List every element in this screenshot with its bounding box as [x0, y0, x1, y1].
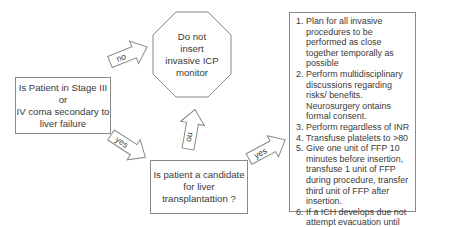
item-text: Plan for all invasive procedures to be p… — [306, 16, 412, 69]
no-outcome-text: Do not insert invasive ICP monitor — [152, 11, 232, 98]
item-number: 2. — [296, 69, 306, 122]
candidate-question-box: Is patient a candidate for liver transpl… — [150, 160, 248, 214]
start-question-box: Is Patient in Stage III or IV coma secon… — [15, 77, 111, 134]
item-text: Give one unit of FFP 10 minutes before i… — [306, 143, 412, 207]
text-line: Is Patient in Stage III — [17, 82, 110, 94]
arrow-candidate-no: no — [176, 108, 207, 152]
text-line: liver failure — [17, 118, 110, 130]
plan-list: 1.Plan for all invasive procedures to be… — [296, 16, 412, 227]
item-text: Transfuse platelets to >80 — [306, 133, 412, 144]
plan-item: 6.If a ICH develops due not attempt evac… — [296, 207, 412, 227]
item-number: 5. — [296, 143, 306, 207]
arrow-start-no: no — [106, 36, 152, 73]
plan-box: 1.Plan for all invasive procedures to be… — [289, 12, 416, 212]
item-number: 3. — [296, 122, 306, 133]
item-text: Perform multidisciplinary discussions re… — [306, 69, 412, 122]
plan-item: 2.Perform multidisciplinary discussions … — [296, 69, 412, 122]
arrow-candidate-yes: yes — [243, 129, 290, 169]
item-text: If a ICH develops due not attempt evacua… — [306, 207, 412, 227]
item-number: 6. — [296, 207, 306, 227]
text-line: invasive ICP — [165, 55, 218, 67]
item-number: 1. — [296, 16, 306, 69]
text-line: IV coma secondary to — [17, 106, 110, 118]
text-line: Do not — [165, 31, 218, 43]
plan-item: 4.Transfuse platelets to >80 — [296, 133, 412, 144]
arrow-start-yes: yes — [104, 125, 151, 167]
item-text: Perform regardless of INR — [306, 122, 412, 133]
plan-item: 1.Plan for all invasive procedures to be… — [296, 16, 412, 69]
plan-item: 3.Perform regardless of INR — [296, 122, 412, 133]
text-line: monitor — [165, 67, 218, 79]
text-line: transplantattion ? — [153, 193, 244, 205]
text-line: insert — [165, 43, 218, 55]
text-line: for liver — [153, 181, 244, 193]
arrow-label-candidate-no: no — [184, 132, 196, 143]
text-line: or — [17, 94, 110, 106]
text-line: Is patient a candidate — [153, 169, 244, 181]
plan-item: 5.Give one unit of FFP 10 minutes before… — [296, 143, 412, 207]
item-number: 4. — [296, 133, 306, 144]
